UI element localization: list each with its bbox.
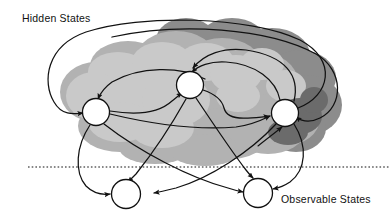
diagram-canvas: Hidden States Observable States [0,0,390,223]
hidden-state-node-3[interactable] [272,100,299,127]
hmm-state-diagram: Hidden States Observable States [0,0,390,223]
hidden-states-label: Hidden States [22,12,91,24]
observable-state-node-1[interactable] [112,180,141,209]
observable-state-node-2[interactable] [244,179,273,208]
hidden-state-node-1[interactable] [83,99,110,126]
observable-states-label: Observable States [281,193,371,205]
hidden-state-node-2[interactable] [177,72,204,99]
